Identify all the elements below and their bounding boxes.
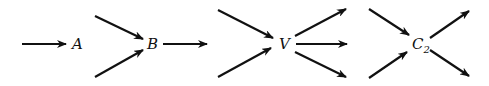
arrow-into-v-upper [218,10,273,38]
node-label-b: B [146,35,158,53]
node-group-a: A [22,35,83,53]
node-group-b: B [95,16,207,77]
arrow-out-of-c2-lower [430,50,469,76]
node-label-v: V [279,35,292,53]
arrow-out-of-v-upper [295,9,346,36]
arrow-out-of-c2-upper [430,11,469,38]
node-label-a: A [70,35,83,53]
arrow-into-b-upper [95,16,143,39]
arrow-into-v-lower [218,48,271,77]
arrow-out-of-v-lower [295,52,346,77]
node-group-c2: C2 [369,9,469,78]
vertex-diagram: A B V C2 [0,0,489,86]
arrow-into-c2-upper [369,9,409,35]
arrow-into-b-lower [95,50,143,77]
arrow-into-c2-lower [369,52,407,78]
node-label-c2-subscript: 2 [422,44,429,55]
node-group-v: V [218,9,347,77]
node-label-c2: C2 [412,35,430,55]
